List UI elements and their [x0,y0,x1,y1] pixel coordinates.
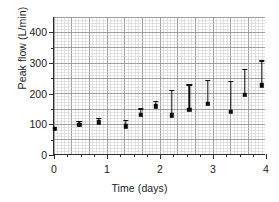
data-point-marker [243,92,247,96]
y-axis-tick-label: 100 [29,118,47,130]
x-axis-minor-tick [253,154,254,157]
x-axis-minor-tick [120,154,121,157]
error-bar-cap-upper [259,60,264,61]
error-bar-cap-upper [169,90,174,91]
error-bar [230,81,231,113]
error-bar-cap-upper [186,84,191,85]
data-point-marker [77,123,81,127]
data-point-marker [205,102,209,106]
y-axis-minor-tick [51,140,54,141]
y-axis-minor-tick [51,109,54,110]
error-bar-cap-upper [138,108,143,109]
y-axis-tick [49,124,54,125]
data-point-marker [53,127,57,131]
data-point-marker [154,104,158,108]
y-axis-tick-label: 0 [41,149,47,161]
data-point-marker [139,113,143,117]
x-axis-tick-label: 0 [51,163,57,175]
y-axis-tick-label: 400 [29,26,47,38]
x-axis-minor-tick [200,154,201,157]
x-axis-tick-label: 4 [263,163,269,175]
x-axis-tick-label: 1 [104,163,110,175]
data-point-marker [97,120,101,124]
data-point-marker [169,113,173,117]
y-axis-tick [49,32,54,33]
y-axis-minor-tick [51,48,54,49]
x-axis-tick [107,154,108,159]
x-axis-tick-label: 3 [210,163,216,175]
y-axis-tick-label: 200 [29,88,47,100]
x-axis-title: Time (days) [0,182,279,194]
x-axis-minor-tick [173,154,174,157]
y-axis-tick [49,63,54,64]
data-point-marker [187,107,191,111]
error-bar-cap-upper [205,80,210,81]
x-axis-tick [213,154,214,159]
x-axis-minor-tick [94,154,95,157]
x-axis-tick [160,154,161,159]
y-axis-minor-tick [51,78,54,79]
y-axis-tick-label: 300 [29,57,47,69]
error-bar-cap-upper [228,81,233,82]
data-point-marker [229,110,233,114]
x-axis-minor-tick [147,154,148,157]
x-axis-minor-tick [134,154,135,157]
error-bar-cap-upper [77,121,82,122]
x-axis-minor-tick [240,154,241,157]
x-axis-tick [54,154,55,159]
x-axis-tick-label: 2 [157,163,163,175]
y-axis-tick [49,94,54,95]
x-axis-tick [266,154,267,159]
data-point-marker [260,83,264,87]
x-axis-minor-tick [226,154,227,157]
x-axis-minor-tick [187,154,188,157]
plot-area: 010020030040001234 [53,17,265,155]
x-axis-minor-tick [81,154,82,157]
grid-lines [54,17,265,154]
error-bar-cap-upper [242,69,247,70]
data-point-marker [123,124,127,128]
x-axis-minor-tick [67,154,68,157]
error-bar-cap-upper [153,101,158,102]
y-axis-title: Peak flow (L/min) [16,0,28,118]
error-bar-cap-upper [123,120,128,121]
chart-figure: Peak flow (L/min) 010020030040001234 Tim… [0,0,279,202]
